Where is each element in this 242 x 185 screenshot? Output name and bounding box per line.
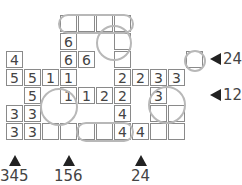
grid-cell[interactable]: 3: [24, 105, 41, 122]
grid-cell[interactable]: 5: [24, 69, 41, 86]
grid-cell[interactable]: [150, 105, 167, 122]
arrow-up-icon: [9, 155, 21, 166]
grid-cell[interactable]: 1: [60, 87, 77, 104]
grid-cell[interactable]: 6: [60, 51, 77, 68]
grid-cell[interactable]: 2: [114, 69, 131, 86]
column-clue: 345: [0, 167, 29, 185]
row-clue: 1235: [210, 86, 242, 104]
grid-cell[interactable]: [78, 123, 95, 140]
grid-cell[interactable]: [114, 51, 131, 68]
grid-cell[interactable]: [42, 123, 59, 140]
grid-cell[interactable]: [60, 123, 77, 140]
grid-cell[interactable]: 5: [24, 87, 41, 104]
grid-cell[interactable]: 2: [96, 87, 113, 104]
row-clue-text: 1235: [223, 86, 242, 104]
grid-cell[interactable]: 3: [6, 105, 23, 122]
arrow-up-icon: [135, 155, 147, 166]
grid-cell[interactable]: [114, 33, 131, 50]
grid-cell[interactable]: [168, 123, 185, 140]
grid-cell[interactable]: 3: [168, 69, 185, 86]
grid-cell[interactable]: 4: [6, 51, 23, 68]
grid-cell[interactable]: 4: [132, 123, 149, 140]
grid-cell[interactable]: [186, 51, 203, 68]
grid-cell[interactable]: 1: [42, 69, 59, 86]
row-clue-text: 246: [223, 50, 242, 68]
row-clue: 246: [210, 50, 242, 68]
grid-cell[interactable]: [114, 15, 131, 32]
arrow-left-icon: [210, 53, 221, 65]
grid-cell[interactable]: 6: [60, 33, 77, 50]
grid-cell[interactable]: 2: [114, 87, 131, 104]
grid-cell[interactable]: [60, 15, 77, 32]
grid-cell[interactable]: 4: [114, 123, 131, 140]
grid-cell[interactable]: 1: [78, 87, 95, 104]
grid-cell[interactable]: 3: [150, 87, 167, 104]
grid-cell[interactable]: [96, 123, 113, 140]
grid-cell[interactable]: [150, 123, 167, 140]
grid-cell[interactable]: 4: [114, 105, 131, 122]
grid-cell[interactable]: 3: [24, 123, 41, 140]
puzzle-board: 6466551122335112233343344246123534515624: [0, 0, 242, 185]
grid-cell[interactable]: 5: [6, 69, 23, 86]
grid-cell[interactable]: 3: [6, 123, 23, 140]
grid-cell[interactable]: [168, 105, 185, 122]
grid-cell[interactable]: [78, 15, 95, 32]
grid-cell[interactable]: 2: [132, 69, 149, 86]
grid-cell[interactable]: 1: [60, 69, 77, 86]
arrow-up-icon: [63, 155, 75, 166]
grid-cell[interactable]: [96, 15, 113, 32]
column-clue: 24: [131, 167, 150, 185]
arrow-left-icon: [210, 89, 221, 101]
grid-cell[interactable]: 6: [78, 51, 95, 68]
column-clue: 156: [54, 167, 83, 185]
grid-cell[interactable]: 3: [150, 69, 167, 86]
